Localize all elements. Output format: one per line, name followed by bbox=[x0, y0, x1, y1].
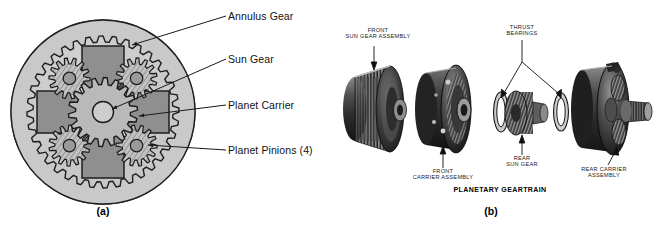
component-front-carrier-assembly bbox=[415, 65, 471, 153]
component-thrust-bearing-right bbox=[554, 93, 569, 131]
label-rear-sun-gear-line2: SUN GEAR bbox=[490, 161, 554, 167]
label-planet-pinions: Planet Pinions (4) bbox=[228, 145, 313, 157]
label-thrust-bearings: THRUST BEARINGS bbox=[486, 24, 558, 37]
planet-pinion-bore bbox=[130, 139, 142, 151]
figure-planetary-gearset: Annulus Gear Sun Gear Planet Carrier Pla… bbox=[0, 0, 660, 225]
label-sun-gear: Sun Gear bbox=[228, 54, 274, 66]
label-front-sun-gear-assembly-line2: SUN GEAR ASSEMBLY bbox=[330, 33, 426, 39]
label-front-sun-gear-assembly: FRONT SUN GEAR ASSEMBLY bbox=[330, 27, 426, 40]
label-front-carrier-assembly-line2: CARRIER ASSEMBLY bbox=[394, 174, 492, 180]
component-rear-sun-gear bbox=[505, 91, 548, 135]
label-rear-carrier-assembly-line2: ASSEMBLY bbox=[562, 172, 646, 178]
planetary-gearset-drawing bbox=[0, 0, 330, 225]
label-thrust-bearings-line2: BEARINGS bbox=[486, 30, 558, 36]
planet-pinion-bore bbox=[63, 139, 75, 151]
label-planet-carrier: Planet Carrier bbox=[228, 100, 294, 112]
panel-a: Annulus Gear Sun Gear Planet Carrier Pla… bbox=[0, 0, 330, 225]
panel-b: FRONT SUN GEAR ASSEMBLY THRUST BEARINGS … bbox=[330, 0, 660, 225]
label-rear-carrier-assembly: REAR CARRIER ASSEMBLY bbox=[562, 166, 646, 179]
caption-a: (a) bbox=[78, 205, 128, 217]
sun-gear-bore bbox=[93, 102, 114, 123]
planet-pinion-bore bbox=[130, 72, 142, 84]
label-rear-sun-gear: REAR SUN GEAR bbox=[490, 155, 554, 168]
label-annulus-gear: Annulus Gear bbox=[228, 11, 293, 23]
component-front-sun-gear-assembly bbox=[343, 66, 407, 152]
component-rear-carrier-assembly bbox=[571, 62, 652, 155]
caption-b: (b) bbox=[466, 205, 516, 217]
panel-b-title: PLANETARY GEARTRAIN bbox=[440, 186, 560, 194]
planet-pinion-bore bbox=[63, 72, 75, 84]
label-front-carrier-assembly: FRONT CARRIER ASSEMBLY bbox=[394, 168, 492, 181]
